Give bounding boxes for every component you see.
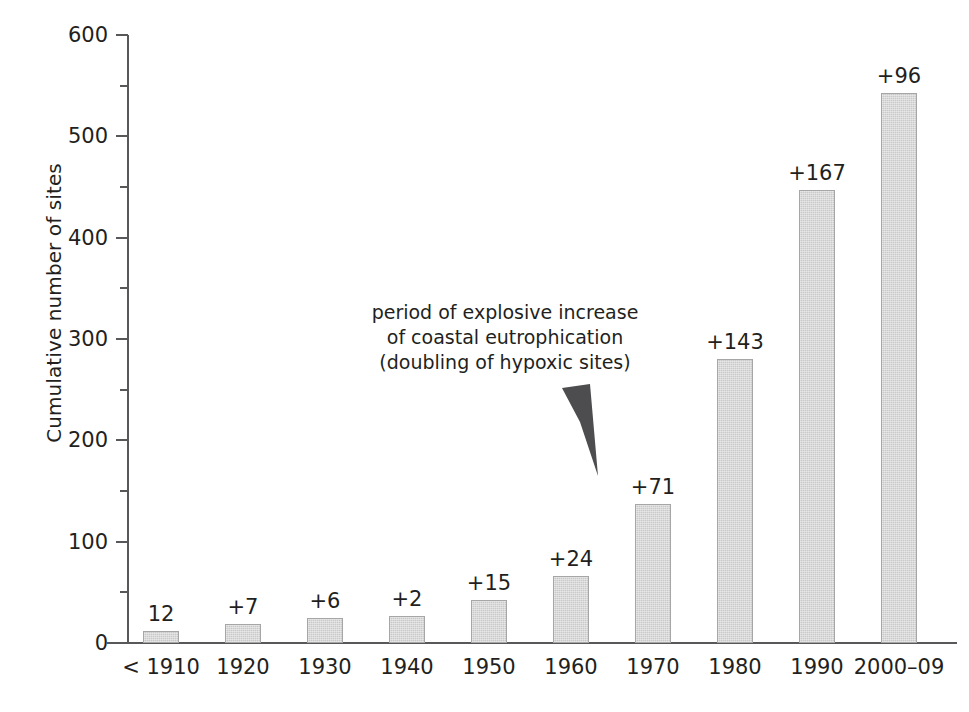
bar: [143, 631, 179, 643]
x-tick-label: 1950: [462, 655, 515, 679]
bar: [553, 576, 589, 643]
annotation-line: (doubling of hypoxic sites): [355, 350, 655, 375]
x-tick-label: 1920: [216, 655, 269, 679]
x-tick-label: 1990: [790, 655, 843, 679]
bar-value-label: +143: [706, 330, 764, 354]
bar-value-label: +24: [549, 547, 593, 571]
bar: [635, 504, 671, 643]
bar: [307, 618, 343, 643]
annotation-text: period of explosive increaseof coastal e…: [355, 300, 655, 375]
annotation-arrow-icon: [556, 378, 646, 482]
bar-value-label: +6: [310, 589, 341, 613]
bar-value-label: +2: [392, 587, 423, 611]
bar-value-label: +15: [467, 571, 511, 595]
x-tick-label: < 1910: [122, 655, 200, 679]
bar: [717, 359, 753, 643]
x-tick-label: 1930: [298, 655, 351, 679]
annotation-line: of coastal eutrophication: [355, 325, 655, 350]
bar: [881, 93, 917, 643]
x-tick-label: 2000–09: [854, 655, 945, 679]
bar: [471, 600, 507, 643]
bar: [389, 616, 425, 643]
bar-value-label: +7: [228, 595, 259, 619]
chart-figure: Cumulative number of sites 0100200300400…: [0, 0, 969, 712]
bar: [225, 624, 261, 643]
x-tick-label: 1960: [544, 655, 597, 679]
bar-value-label: +167: [788, 161, 846, 185]
bar: [799, 190, 835, 643]
bar-value-label: +96: [877, 64, 921, 88]
x-tick-label: 1980: [708, 655, 761, 679]
x-tick-label: 1970: [626, 655, 679, 679]
bar-value-label: 12: [148, 602, 175, 626]
annotation-line: period of explosive increase: [355, 300, 655, 325]
x-tick-label: 1940: [380, 655, 433, 679]
